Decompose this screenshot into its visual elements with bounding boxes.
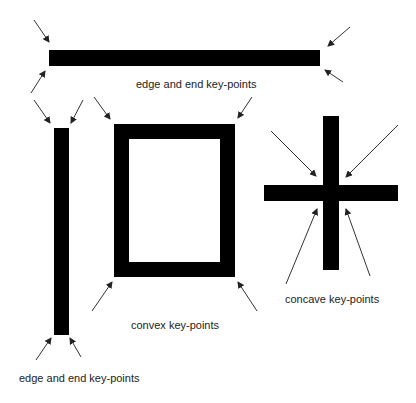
arrow-icon	[325, 70, 343, 82]
arrow-icon	[34, 100, 50, 123]
arrow-icon	[70, 338, 81, 357]
arrow-icon	[238, 282, 257, 311]
arrow-icon	[34, 20, 49, 42]
arrow-icon	[238, 97, 252, 118]
arrow-icon	[31, 71, 45, 93]
arrow-icon	[346, 209, 370, 276]
arrow-icon	[328, 27, 350, 46]
arrow-icon	[286, 209, 317, 284]
arrow-icon	[94, 97, 110, 119]
arrow-icon	[346, 125, 398, 177]
cross-label: concave key-points	[285, 293, 379, 305]
vertical-bar-label: edge and end key-points	[19, 372, 139, 384]
horizontal-bar	[49, 50, 320, 66]
frame-label: convex key-points	[131, 319, 219, 331]
top-bar-label: edge and end key-points	[136, 78, 256, 90]
cross-horizontal-bar	[264, 185, 398, 201]
arrow-icon	[92, 282, 112, 311]
vertical-bar	[54, 128, 69, 335]
arrow-icon	[271, 131, 316, 176]
arrow-icon	[36, 338, 51, 360]
rectangle-frame	[114, 124, 235, 277]
arrow-icon	[71, 100, 83, 123]
